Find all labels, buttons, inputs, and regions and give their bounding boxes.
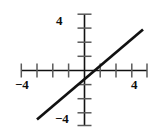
coordinate-plane-chart: 4 −4 4 −4: [0, 0, 161, 139]
x-axis-max-label: 4: [131, 78, 137, 91]
y-axis-min-label: −4: [55, 112, 69, 125]
y-axis-max-label: 4: [56, 14, 62, 27]
x-axis-min-label: −4: [15, 78, 29, 91]
plot-area: [0, 0, 161, 139]
